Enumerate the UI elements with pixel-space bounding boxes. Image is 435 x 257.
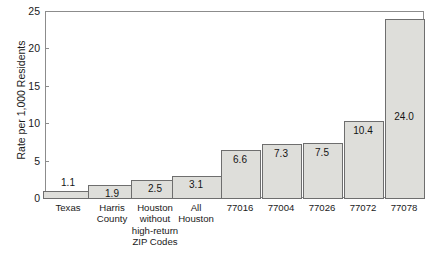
bar-value-label: 6.6	[220, 154, 260, 165]
bar-value-label: 7.3	[261, 148, 301, 159]
bar-value-label: 1.1	[42, 177, 95, 188]
bar-chart-figure: Rate per 1,000 Residents 0510152025 Texa…	[0, 0, 435, 257]
plot-area	[45, 11, 424, 198]
y-tick-label: 20	[16, 43, 40, 53]
x-tick-label: 77078	[373, 202, 435, 213]
y-tick-mark	[45, 86, 49, 87]
bar-value-label: 7.5	[302, 147, 342, 158]
y-tick-label: 10	[16, 118, 40, 128]
y-tick-mark	[45, 161, 49, 162]
bar-value-label: 3.1	[171, 179, 222, 190]
y-tick-mark	[45, 48, 49, 49]
y-tick-mark	[45, 123, 49, 124]
bar	[385, 19, 425, 199]
y-tick-label: 5	[16, 156, 40, 166]
bar-value-label: 24.0	[384, 111, 424, 122]
y-tick-label: 15	[16, 81, 40, 91]
bar-value-label: 10.4	[343, 125, 383, 136]
y-axis-ticks: 0510152025	[0, 0, 45, 257]
y-tick-label: 25	[16, 6, 40, 16]
